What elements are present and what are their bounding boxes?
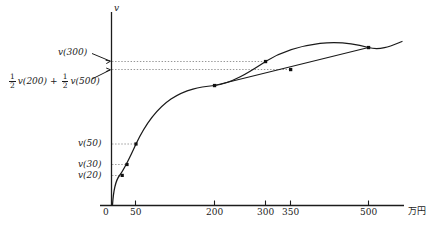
x-tick-label-200: 200	[206, 208, 223, 217]
fraction-one-half-second: 1 2	[62, 73, 69, 89]
marker-v20	[121, 174, 124, 177]
x-tick-label-350: 350	[282, 208, 299, 217]
marker-chord-mid	[289, 68, 292, 71]
y-label-v50: v(50)	[78, 139, 102, 148]
x-axis-ticks	[136, 201, 369, 206]
chord-line	[215, 48, 369, 86]
x-tick-label-0: 0	[103, 208, 109, 217]
annotation-expected-utility: 1 2 v(200) + 1 2 v(500)	[8, 73, 100, 89]
x-tick-label-300: 300	[257, 208, 274, 217]
utility-curve	[113, 42, 403, 206]
x-axis-unit-label: 万円	[408, 207, 426, 216]
fraction-one-half-first: 1 2	[9, 73, 16, 89]
y-label-v20: v(20)	[78, 171, 102, 180]
utility-function-chart	[0, 0, 438, 227]
y-axis-label: v	[114, 4, 119, 13]
marker-v500	[367, 46, 370, 49]
data-point-markers	[121, 46, 371, 177]
plus-sign: +	[50, 77, 58, 86]
y-label-v30: v(30)	[78, 160, 102, 169]
marker-v30	[125, 163, 128, 166]
marker-v50	[134, 142, 137, 145]
x-tick-label-500: 500	[360, 208, 377, 217]
marker-v300	[264, 60, 267, 63]
annotation-v300: v(300)	[58, 48, 87, 57]
term-v500: v(500)	[70, 77, 99, 86]
marker-v200	[213, 84, 216, 87]
term-v200: v(200)	[18, 77, 47, 86]
x-tick-label-50: 50	[130, 208, 141, 217]
